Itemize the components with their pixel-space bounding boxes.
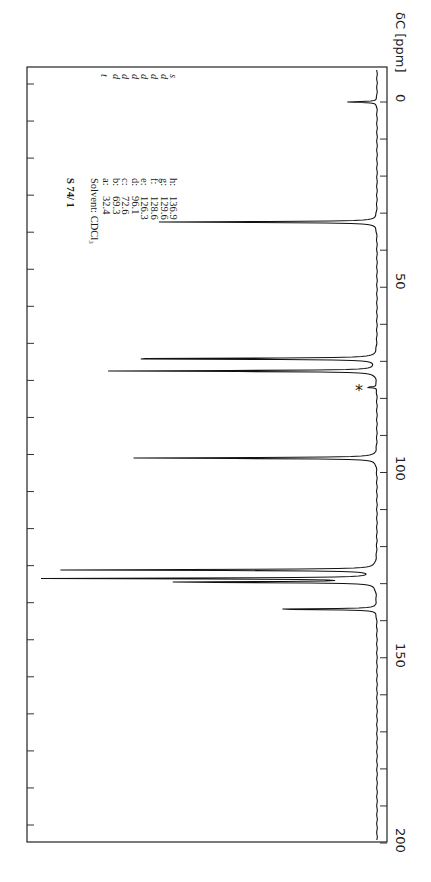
legend-key: h:: [168, 178, 179, 186]
nmr-spectrum-chart: *: [0, 0, 431, 882]
axis-tick-label-50: 50: [393, 273, 408, 290]
plot-frame: [27, 67, 387, 842]
axis-ticks: [27, 84, 387, 843]
axis-tick-label-0: 0: [393, 94, 408, 102]
axis-title: δC [ppm]: [393, 12, 408, 72]
solvent-label: Solvent: CDCl₃: [89, 178, 100, 244]
legend-multiplicity: t: [99, 74, 110, 77]
axis-tick-label-100: 100: [393, 456, 408, 481]
legend-value: 136.9: [168, 196, 179, 220]
solvent-asterisk: *: [355, 381, 363, 400]
axis-tick-label-150: 150: [393, 643, 408, 668]
sample-id: S 74/ 1: [65, 178, 76, 208]
legend-multiplicity: s: [168, 74, 179, 78]
axis-tick-label-200: 200: [393, 828, 408, 853]
